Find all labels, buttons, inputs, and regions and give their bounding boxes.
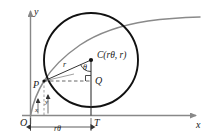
labels-group: y x O P C(rθ, r) Q T r rθ θ x y: [20, 6, 201, 133]
point-label-T: T: [94, 117, 101, 128]
figure-canvas: y x O P C(rθ, r) Q T r rθ θ x y: [0, 0, 209, 139]
right-angle-marker: [86, 76, 92, 82]
right-angle-marker-group: [86, 76, 92, 82]
origin-label: O: [20, 117, 27, 128]
point-marker-P: [42, 79, 45, 82]
cycloid-figure: y x O P C(rθ, r) Q T r rθ θ x y: [0, 0, 209, 139]
segment-label-arc-length: rθ: [54, 124, 61, 133]
x-axis-label: x: [195, 119, 201, 130]
point-label-C: C(rθ, r): [97, 50, 126, 61]
point-marker-C: [89, 58, 93, 62]
point-label-P: P: [32, 79, 39, 90]
angle-label-theta: θ: [83, 63, 87, 72]
y-axis-label: y: [33, 6, 39, 17]
segment-label-radius: r: [63, 60, 67, 69]
point-label-Q: Q: [95, 75, 103, 86]
